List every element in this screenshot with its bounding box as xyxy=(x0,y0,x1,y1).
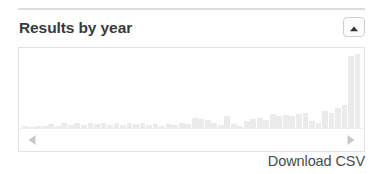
histogram-bar[interactable] xyxy=(303,113,309,128)
download-csv-link[interactable]: Download CSV xyxy=(268,153,365,169)
chevron-up-icon xyxy=(348,21,360,33)
histogram-bar[interactable] xyxy=(335,108,341,128)
histogram-bar[interactable] xyxy=(192,118,198,128)
page-title: Results by year xyxy=(19,19,132,37)
histogram-bar[interactable] xyxy=(276,116,282,128)
histogram-bars xyxy=(22,51,361,128)
triangle-right-icon xyxy=(341,131,359,149)
histogram-bar[interactable] xyxy=(244,121,250,128)
histogram-bar[interactable] xyxy=(296,114,302,128)
histogram-bar[interactable] xyxy=(257,118,263,128)
histogram-bar[interactable] xyxy=(250,119,256,128)
histogram-bar[interactable] xyxy=(283,115,289,128)
histogram-chart[interactable] xyxy=(18,47,365,128)
histogram-bar[interactable] xyxy=(309,121,315,128)
histogram-bar[interactable] xyxy=(224,116,230,128)
chart-pager xyxy=(18,128,365,152)
section-divider xyxy=(18,8,365,10)
histogram-bar[interactable] xyxy=(205,120,211,128)
histogram-bar[interactable] xyxy=(329,113,335,128)
histogram-bar[interactable] xyxy=(355,54,361,128)
scroll-left-button[interactable] xyxy=(24,131,42,149)
histogram-bar[interactable] xyxy=(322,111,328,128)
scroll-right-button[interactable] xyxy=(341,131,359,149)
histogram-bar[interactable] xyxy=(198,119,204,128)
collapse-panel-button[interactable] xyxy=(343,17,365,37)
histogram-bar[interactable] xyxy=(289,116,295,128)
results-by-year-widget: Results by year xyxy=(0,0,373,174)
histogram-bar[interactable] xyxy=(348,56,354,128)
histogram-bar[interactable] xyxy=(270,114,276,128)
histogram-bar[interactable] xyxy=(263,120,269,128)
triangle-left-icon xyxy=(24,131,42,149)
panel-header: Results by year xyxy=(18,17,365,45)
histogram-bar[interactable] xyxy=(342,105,348,128)
